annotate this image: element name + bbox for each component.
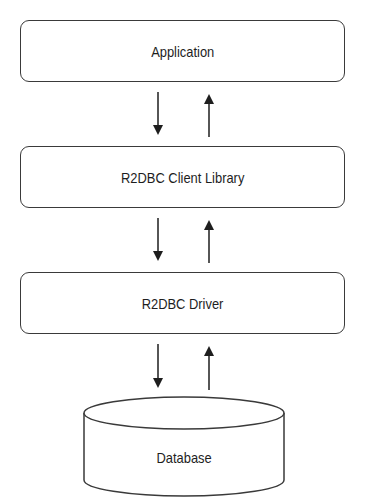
arrow-pair-client-driver [158,218,209,263]
connectors [0,0,366,503]
database-label-text: Database [156,449,211,466]
database-label: Database [84,449,284,466]
database-cylinder-icon [84,397,284,496]
arrow-pair-app-client [158,92,209,137]
arrow-pair-driver-database [158,344,209,390]
